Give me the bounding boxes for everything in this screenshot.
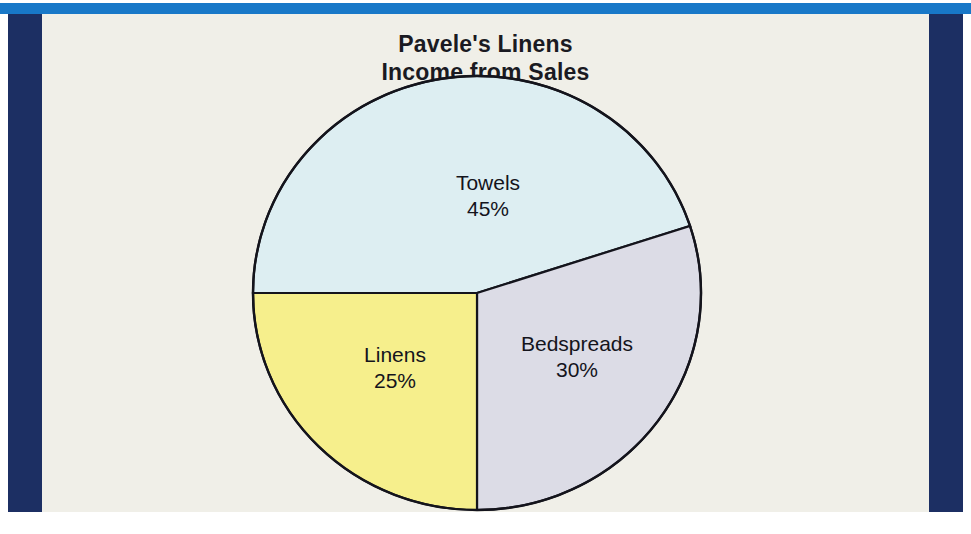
figure-page: Pavele's Linens Income from Sales Towels… bbox=[0, 0, 971, 534]
pie-slice-linens bbox=[253, 293, 477, 510]
pie-label-bedspreads-name: Bedspreads bbox=[521, 332, 633, 355]
pie-chart: Towels 45% Bedspreads 30% Linens 25% bbox=[42, 14, 929, 512]
pie-label-linens-value: 25% bbox=[310, 368, 480, 394]
top-blue-rule bbox=[0, 3, 971, 14]
figure-area: Pavele's Linens Income from Sales Towels… bbox=[42, 14, 929, 512]
pie-label-towels-name: Towels bbox=[456, 171, 520, 194]
right-navy-band bbox=[929, 14, 963, 512]
pie-label-towels: Towels 45% bbox=[398, 170, 578, 222]
pie-chart-svg bbox=[247, 71, 707, 515]
left-navy-band bbox=[8, 14, 42, 512]
pie-label-linens-name: Linens bbox=[364, 343, 426, 366]
pie-label-bedspreads-value: 30% bbox=[477, 357, 677, 383]
pie-label-bedspreads: Bedspreads 30% bbox=[477, 331, 677, 383]
pie-label-linens: Linens 25% bbox=[310, 342, 480, 394]
pie-label-towels-value: 45% bbox=[398, 196, 578, 222]
